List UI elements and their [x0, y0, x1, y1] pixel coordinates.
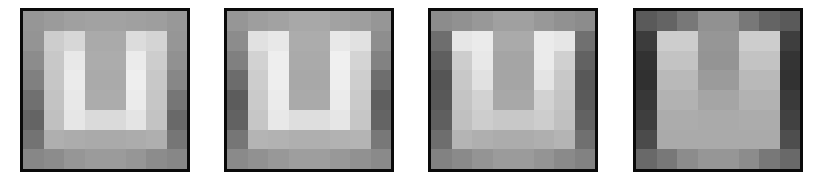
- pixel-cell: [227, 130, 248, 150]
- pixel-cell: [350, 11, 371, 31]
- pixel-cell: [759, 70, 780, 90]
- pixel-cell: [309, 149, 330, 169]
- image-panel-1: [20, 8, 190, 172]
- pixel-cell: [126, 149, 147, 169]
- pixel-cell: [718, 130, 739, 150]
- pixel-cell: [739, 130, 760, 150]
- pixel-cell: [330, 149, 351, 169]
- pixel-cell: [759, 110, 780, 130]
- pixel-cell: [513, 51, 534, 71]
- pixel-cell: [44, 130, 65, 150]
- pixel-cell: [657, 149, 678, 169]
- pixel-cell: [330, 130, 351, 150]
- pixel-cell: [698, 51, 719, 71]
- pixel-cell: [350, 31, 371, 51]
- pixel-cell: [677, 130, 698, 150]
- pixel-cell: [146, 130, 167, 150]
- pixel-cell: [472, 11, 493, 31]
- pixel-cell: [452, 51, 473, 71]
- pixel-cell: [126, 31, 147, 51]
- pixel-cell: [534, 70, 555, 90]
- pixel-cell: [23, 70, 44, 90]
- pixel-cell: [126, 130, 147, 150]
- pixel-cell: [452, 149, 473, 169]
- pixel-cell: [759, 130, 780, 150]
- pixel-cell: [739, 51, 760, 71]
- pixel-cell: [146, 149, 167, 169]
- pixel-cell: [636, 110, 657, 130]
- pixel-cell: [513, 11, 534, 31]
- pixel-cell: [371, 110, 392, 130]
- pixel-cell: [167, 70, 188, 90]
- pixel-cell: [105, 90, 126, 110]
- pixel-cell: [759, 11, 780, 31]
- pixel-cell: [554, 149, 575, 169]
- pixel-cell: [759, 90, 780, 110]
- pixel-cell: [534, 110, 555, 130]
- pixel-cell: [739, 149, 760, 169]
- pixel-cell: [330, 31, 351, 51]
- pixel-cell: [493, 130, 514, 150]
- pixel-cell: [64, 51, 85, 71]
- pixel-cell: [350, 149, 371, 169]
- pixel-cell: [431, 110, 452, 130]
- pixel-cell: [248, 11, 269, 31]
- pixel-cell: [677, 90, 698, 110]
- pixel-grid: [431, 11, 595, 169]
- pixel-cell: [677, 31, 698, 51]
- image-panel-4: [633, 8, 803, 172]
- pixel-cell: [167, 149, 188, 169]
- pixel-cell: [534, 11, 555, 31]
- pixel-cell: [575, 11, 596, 31]
- pixel-cell: [85, 110, 106, 130]
- pixel-cell: [330, 90, 351, 110]
- pixel-cell: [739, 110, 760, 130]
- pixel-cell: [105, 110, 126, 130]
- pixel-cell: [452, 11, 473, 31]
- pixel-cell: [554, 51, 575, 71]
- pixel-cell: [780, 90, 801, 110]
- pixel-cell: [657, 11, 678, 31]
- pixel-cell: [657, 110, 678, 130]
- pixel-cell: [85, 51, 106, 71]
- pixel-cell: [146, 90, 167, 110]
- pixel-cell: [105, 149, 126, 169]
- pixel-cell: [289, 70, 310, 90]
- pixel-cell: [309, 130, 330, 150]
- pixel-cell: [167, 51, 188, 71]
- pixel-cell: [780, 130, 801, 150]
- pixel-cell: [44, 11, 65, 31]
- pixel-cell: [636, 11, 657, 31]
- pixel-cell: [513, 31, 534, 51]
- pixel-cell: [636, 149, 657, 169]
- pixel-cell: [268, 149, 289, 169]
- pixel-cell: [718, 11, 739, 31]
- pixel-cell: [371, 149, 392, 169]
- pixel-cell: [493, 149, 514, 169]
- pixel-cell: [718, 149, 739, 169]
- pixel-grid: [227, 11, 391, 169]
- pixel-cell: [657, 130, 678, 150]
- pixel-cell: [636, 70, 657, 90]
- pixel-cell: [268, 130, 289, 150]
- pixel-cell: [105, 31, 126, 51]
- pixel-cell: [472, 149, 493, 169]
- pixel-cell: [677, 110, 698, 130]
- pixel-cell: [677, 51, 698, 71]
- pixel-cell: [636, 51, 657, 71]
- pixel-cell: [780, 70, 801, 90]
- pixel-cell: [534, 130, 555, 150]
- pixel-cell: [371, 11, 392, 31]
- pixel-cell: [718, 110, 739, 130]
- pixel-cell: [126, 11, 147, 31]
- pixel-cell: [575, 149, 596, 169]
- pixel-cell: [534, 31, 555, 51]
- pixel-cell: [371, 70, 392, 90]
- pixel-cell: [554, 90, 575, 110]
- pixel-cell: [268, 31, 289, 51]
- pixel-cell: [330, 51, 351, 71]
- image-panel-2: [224, 8, 394, 172]
- pixel-cell: [718, 90, 739, 110]
- pixel-cell: [698, 11, 719, 31]
- pixel-cell: [780, 31, 801, 51]
